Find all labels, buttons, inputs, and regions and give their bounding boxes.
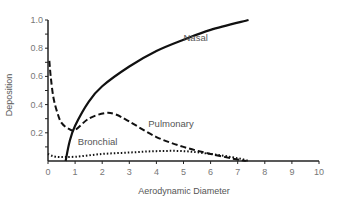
x-tick-label: 1 (73, 167, 78, 177)
x-tick-label: 2 (100, 167, 105, 177)
bronchial-curve (48, 151, 249, 161)
y-tick-label: 0.4 (30, 100, 43, 110)
bronchial-label: Bronchial (78, 136, 118, 147)
x-tick-label: 0 (45, 167, 50, 177)
x-tick-label: 8 (262, 167, 267, 177)
x-tick-label: 7 (235, 167, 240, 177)
pulmonary-label: Pulmonary (148, 118, 194, 129)
x-tick-label: 5 (181, 167, 186, 177)
y-tick-label: 0.6 (30, 71, 43, 81)
deposition-chart: 0123456789100.20.40.60.81.0 NasalPulmona… (0, 0, 339, 207)
y-tick-label: 0.8 (30, 43, 43, 53)
y-axis-title: Deposition (4, 74, 14, 117)
x-tick-label: 3 (127, 167, 132, 177)
x-tick-label: 6 (208, 167, 213, 177)
x-axis-title: Aerodynamic Diameter (138, 186, 230, 196)
x-tick-label: 9 (289, 167, 294, 177)
axes: 0123456789100.20.40.60.81.0 (30, 15, 324, 177)
y-tick-label: 0.2 (30, 128, 43, 138)
x-tick-label: 4 (154, 167, 159, 177)
nasal-label: Nasal (184, 32, 208, 43)
x-tick-label: 10 (314, 167, 324, 177)
y-tick-label: 1.0 (30, 15, 43, 25)
